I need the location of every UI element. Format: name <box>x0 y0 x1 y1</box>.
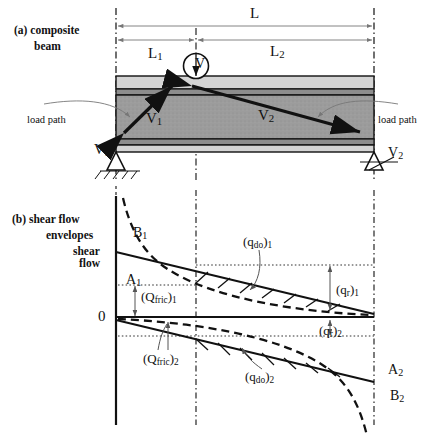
load-path-label-left: load path <box>27 114 66 126</box>
dimension-label-L2: L2 <box>270 43 285 61</box>
annotation-B1: B1 <box>133 225 147 242</box>
chart-y-axis-label-line2: flow <box>79 257 100 270</box>
applied-load-label: V <box>195 56 205 72</box>
panel-a-label-line2: beam <box>34 40 61 53</box>
annotation-qr1: (qr)1 <box>336 283 359 299</box>
annotation-qdo2: (qdo)2 <box>245 370 274 386</box>
beam-upper-adhesive-band <box>116 89 374 95</box>
annotation-Qfric1: (Qfric)1 <box>141 290 177 306</box>
reaction-label-v2: V2 <box>388 145 403 162</box>
load-path-label-right: load path <box>378 114 417 126</box>
annotation-qr2: (qr)2 <box>319 324 342 340</box>
panel-b-label-line2: envelopes <box>46 229 93 242</box>
panel-b-label-line1: (b) shear flow <box>12 213 80 226</box>
dimension-label-L: L <box>250 5 259 22</box>
strut-label-v2: V2 <box>258 107 274 125</box>
annotation-A2: A2 <box>388 362 403 379</box>
dimension-label-L1: L1 <box>148 45 163 63</box>
panel-a-label-line1: (a) composite <box>14 24 79 37</box>
beam-bottom-flange <box>116 145 374 152</box>
reaction-label-v1: V1 <box>94 142 109 159</box>
leader-Qfric2 <box>158 324 167 350</box>
annotation-qdo1: (qdo)1 <box>243 235 272 251</box>
strut-label-v1: V1 <box>146 110 162 128</box>
beam-top-flange <box>116 76 374 89</box>
annotation-Qfric2: (Qfric)2 <box>143 352 179 368</box>
annotation-A1: A1 <box>126 272 141 289</box>
chart-origin-label: 0 <box>98 308 106 325</box>
hatch-qdo1 <box>196 272 340 311</box>
annotation-B2: B2 <box>390 388 404 405</box>
panel-b-shear-flow-chart <box>116 186 374 436</box>
beam-lower-adhesive-band <box>116 139 374 145</box>
